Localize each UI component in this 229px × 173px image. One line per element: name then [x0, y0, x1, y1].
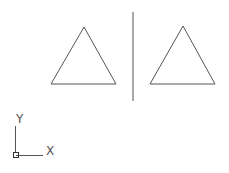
- drawing-canvas[interactable]: Y X: [0, 0, 229, 173]
- ucs-y-label: Y: [16, 113, 23, 125]
- right-triangle[interactable]: [150, 26, 215, 84]
- ucs-icon: [14, 126, 44, 158]
- drawing-svg: [0, 0, 229, 173]
- left-triangle[interactable]: [51, 27, 116, 84]
- ucs-x-label: X: [46, 145, 54, 157]
